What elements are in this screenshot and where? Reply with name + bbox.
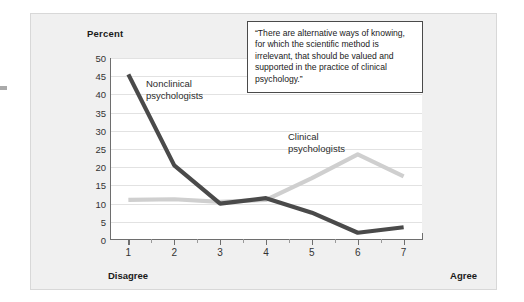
y-axis-tick-label: 25	[80, 144, 106, 155]
x-axis-tick	[128, 239, 129, 245]
y-axis-cap	[110, 233, 111, 240]
x-axis-tick	[404, 239, 405, 245]
y-axis-title: Percent	[87, 28, 123, 39]
y-axis-tick-label: 30	[80, 125, 106, 136]
x-axis-tick-label: 4	[253, 247, 279, 258]
x-axis-tick-label: 6	[345, 247, 371, 258]
quote-callout-box: “There are alternative ways of knowing, …	[247, 21, 423, 93]
x-axis-minor-tick	[243, 239, 244, 243]
x-axis-tick-label: 7	[391, 247, 417, 258]
x-axis-tick	[174, 239, 175, 245]
x-axis-tick	[220, 239, 221, 245]
x-axis-tick-label: 5	[299, 247, 325, 258]
x-axis-tick-label: 3	[207, 247, 233, 258]
x-axis-tick-label: 1	[115, 247, 141, 258]
x-axis-endpoint-agree: Agree	[450, 270, 477, 281]
x-axis-minor-tick	[381, 239, 382, 243]
y-axis-line	[110, 58, 111, 240]
x-axis-minor-tick	[335, 239, 336, 243]
y-axis-tick-label: 20	[80, 162, 106, 173]
left-edge-artifact	[0, 86, 7, 90]
y-axis-tick-label: 35	[80, 107, 106, 118]
y-axis-labels: 50454035302520151050	[78, 58, 106, 240]
y-axis-tick-label: 0	[80, 235, 106, 246]
y-axis-tick-label: 15	[80, 180, 106, 191]
x-axis-end-cap	[422, 233, 423, 240]
x-axis-endpoint-disagree: Disagree	[108, 270, 148, 281]
y-axis-tick-label: 5	[80, 216, 106, 227]
x-axis-tick	[266, 239, 267, 245]
y-axis-tick-label: 10	[80, 198, 106, 209]
x-axis-tick	[358, 239, 359, 245]
x-axis-minor-tick	[151, 239, 152, 243]
y-axis-tick-label: 40	[80, 89, 106, 100]
series-line-clinical	[128, 154, 403, 201]
x-axis-tick-label: 2	[161, 247, 187, 258]
y-axis-tick-label: 50	[80, 53, 106, 64]
chart-figure: Percent 50454035302520151050 1234567 Dis…	[0, 0, 524, 302]
x-axis-minor-tick	[289, 239, 290, 243]
x-axis-tick	[312, 239, 313, 245]
x-axis-minor-tick	[197, 239, 198, 243]
series-label-clinical: Clinical psychologists	[288, 131, 345, 154]
y-axis-tick-label: 45	[80, 71, 106, 82]
quote-text: “There are alternative ways of knowing, …	[255, 28, 415, 85]
series-label-nonclinical: Nonclinical psychologists	[146, 78, 203, 101]
